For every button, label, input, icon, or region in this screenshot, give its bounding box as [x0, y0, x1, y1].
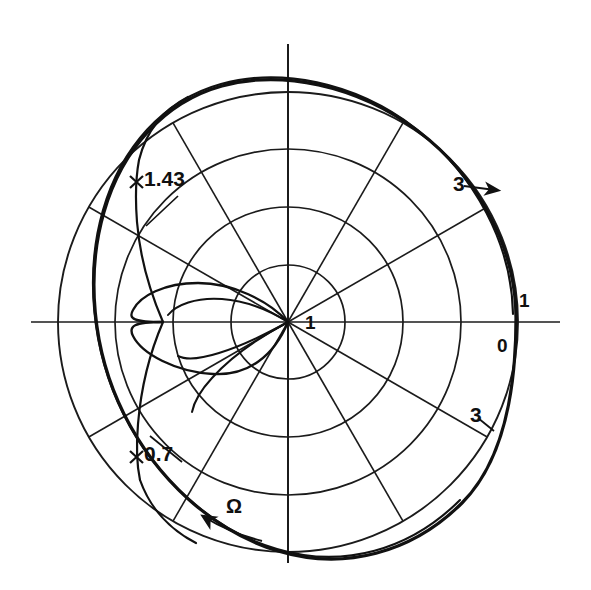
omega-symbol-label: Ω: [226, 496, 242, 516]
leader-1p43: [146, 196, 178, 226]
petal-inner-fold-upper: [168, 299, 288, 322]
grid-spoke-60: [288, 123, 403, 322]
tick-leader-upper-3: [464, 186, 495, 190]
grid-spoke-30: [288, 207, 487, 322]
polar-plot-canvas: [0, 0, 591, 590]
outer-radius-tick-label: 1: [519, 291, 530, 310]
nyquist-polar-figure: 1 1 0 3 3 1.43 0.7 Ω: [0, 0, 591, 590]
frequency-label-lower-right: 3: [470, 404, 482, 425]
frequency-label-upper-right: 3: [453, 173, 465, 194]
petal-tail-left: [192, 322, 288, 412]
axes: [31, 44, 560, 563]
frequency-label-lower-left: 0.7: [144, 443, 173, 464]
center-tick-label: 1: [305, 313, 316, 332]
annotation-leaders: [146, 196, 182, 462]
grid-spoke-150: [89, 207, 288, 322]
branch-lower-left-to-outer: [140, 480, 196, 543]
grid-spoke-120: [173, 123, 288, 322]
grid-spoke-300: [288, 322, 403, 521]
grid-spoke-330: [288, 322, 487, 437]
origin-tick-label: 0: [497, 336, 508, 355]
frequency-label-upper-left: 1.43: [144, 168, 185, 189]
